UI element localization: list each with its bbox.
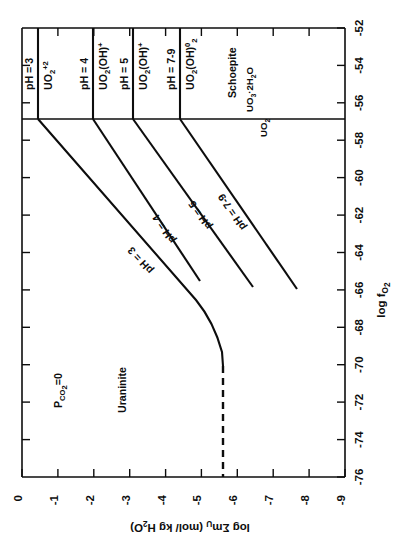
figure-root: -52 -54 -56 -58 -60 -62 -64 -66 -68 -70 … bbox=[0, 0, 399, 534]
ytick-label: -1 bbox=[48, 494, 60, 505]
xtick-label: -72 bbox=[353, 394, 365, 411]
canvas-background bbox=[0, 0, 399, 534]
xtick-label: -68 bbox=[353, 318, 365, 335]
ytick-label: -2 bbox=[84, 495, 96, 505]
annotation-schoepite: Schoepite bbox=[226, 47, 238, 98]
band-label-ph5: pH = 5 bbox=[118, 58, 130, 90]
ytick-label: -9 bbox=[335, 495, 347, 505]
xtick-label: -76 bbox=[353, 469, 365, 486]
ytick-label: -5 bbox=[191, 494, 203, 505]
band-label-ph4: pH = 4 bbox=[78, 58, 90, 90]
ytick-label: -8 bbox=[299, 494, 311, 505]
xtick-label: -74 bbox=[353, 431, 365, 448]
phase-diagram-svg: -52 -54 -56 -58 -60 -62 -64 -66 -68 -70 … bbox=[0, 0, 399, 534]
xtick-label: -56 bbox=[353, 94, 365, 111]
xtick-label: -60 bbox=[353, 169, 365, 186]
annotation-uraninite: Uraninite bbox=[116, 367, 128, 413]
band-label-ph79: pH = 7-9 bbox=[165, 48, 177, 90]
xtick-label: -52 bbox=[353, 20, 365, 37]
xtick-label: -58 bbox=[353, 131, 365, 148]
xtick-label: -64 bbox=[353, 244, 365, 261]
ytick-label: -3 bbox=[120, 495, 132, 505]
xtick-label: -70 bbox=[353, 356, 365, 373]
band-label-ph3: pH = 3 bbox=[23, 58, 35, 90]
xtick-label: -54 bbox=[353, 56, 365, 73]
ytick-label: -7 bbox=[263, 495, 275, 505]
xtick-label: -62 bbox=[353, 207, 365, 224]
xtick-label: -66 bbox=[353, 282, 365, 299]
ytick-label: 0 bbox=[12, 495, 24, 501]
ytick-label: -6 bbox=[227, 495, 239, 505]
ytick-label: -4 bbox=[156, 494, 168, 505]
